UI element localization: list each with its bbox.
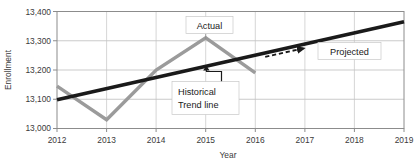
y-tick-label-13300: 13,300 xyxy=(25,36,51,46)
enrollment-trend-chart: Enrollment 13,400 13,300 13,200 13,100 1… xyxy=(0,0,417,164)
callout-projected[interactable]: Projected xyxy=(318,43,381,60)
x-tick-label-2016: 2016 xyxy=(246,135,265,145)
callout-actual-label: Actual xyxy=(197,21,223,31)
callout-historical-label-line2: Trend line xyxy=(178,100,219,110)
y-axis-title: Enrollment xyxy=(3,49,13,90)
x-tick-label-2015: 2015 xyxy=(196,135,215,145)
y-tick-label-13400: 13,400 xyxy=(25,7,51,17)
x-axis-title: Year xyxy=(220,150,237,160)
x-tick-label-2013: 2013 xyxy=(97,135,116,145)
y-tick-label-13100: 13,100 xyxy=(25,94,51,104)
x-tick-label-2018: 2018 xyxy=(345,135,364,145)
x-tick-label-2012: 2012 xyxy=(48,135,67,145)
y-tick-label-13200: 13,200 xyxy=(25,65,51,75)
y-tick-label-13000: 13,000 xyxy=(25,123,51,133)
callout-projected-label: Projected xyxy=(330,47,369,57)
x-tick-label-2019: 2019 xyxy=(395,135,414,145)
chart-svg: Enrollment 13,400 13,300 13,200 13,100 1… xyxy=(0,0,417,164)
callout-historical-label-line1: Historical xyxy=(178,87,216,97)
x-tick-label-2014: 2014 xyxy=(147,135,166,145)
x-tick-label-2017: 2017 xyxy=(296,135,315,145)
